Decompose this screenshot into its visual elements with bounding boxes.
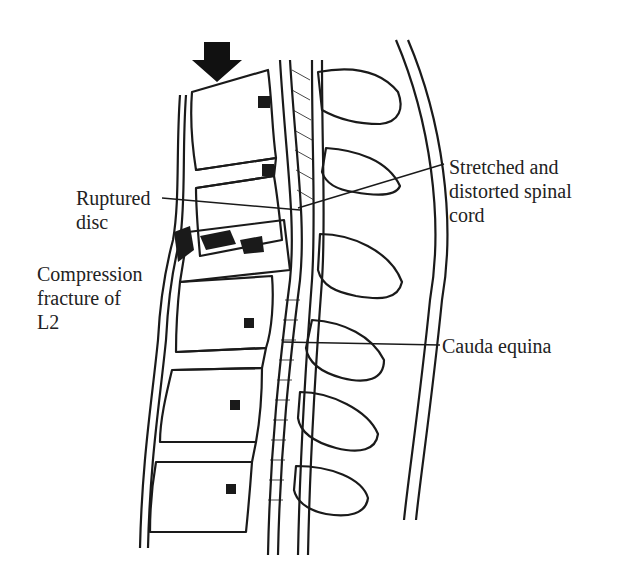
spinous-process-5 — [298, 392, 378, 451]
vertebra-l4 — [160, 368, 262, 442]
vertebra-l2-fractured — [180, 220, 290, 282]
vertebra-l3 — [176, 276, 273, 352]
label-cauda-equina: Cauda equina — [442, 334, 551, 358]
label-ruptured-disc: Ruptured disc — [76, 186, 150, 234]
spinous-process-6 — [294, 466, 368, 515]
label-compression-fracture: Compression fracture of L2 — [37, 262, 143, 334]
leader-spinal-cord — [298, 164, 444, 208]
vertebra-l5 — [150, 462, 252, 532]
spinous-process-3 — [318, 234, 402, 298]
spinous-process-1 — [318, 69, 401, 124]
down-arrow-icon — [192, 42, 242, 82]
label-spinal-cord: Stretched and distorted spinal cord — [449, 155, 572, 227]
vertebra-t12 — [191, 70, 276, 170]
spine-diagram: Ruptured disc Compression fracture of L2… — [0, 0, 629, 571]
spinous-process-2 — [322, 148, 400, 194]
